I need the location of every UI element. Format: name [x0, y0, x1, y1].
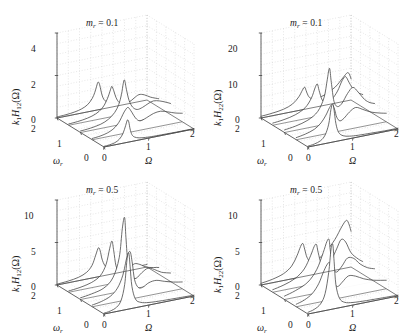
- panel-h12-mr05: mr = 0.5 k1H12(Ω) 10 5 0 2 1 0 0 1 2 ωr …: [0, 167, 204, 334]
- plot-canvas: [204, 0, 408, 167]
- panel-h12-mr01: mr = 0.1 k1H12(Ω) 4 2 0 2 1 0 0 1 2 ωr Ω: [0, 0, 204, 167]
- plot-canvas: [204, 167, 408, 334]
- panel-h22-mr05: mr = 0.5 k1H22(Ω) 10 5 0 2 1 0 0 1 2 ωr …: [204, 167, 408, 334]
- panel-h22-mr01: mr = 0.1 k1H22(Ω) 20 10 0 2 1 0 0 1 2 ωr…: [204, 0, 408, 167]
- figure-2x2-waterfall-plots: mr = 0.1 k1H12(Ω) 4 2 0 2 1 0 0 1 2 ωr Ω…: [0, 0, 408, 334]
- plot-canvas: [0, 167, 204, 334]
- plot-canvas: [0, 0, 204, 167]
